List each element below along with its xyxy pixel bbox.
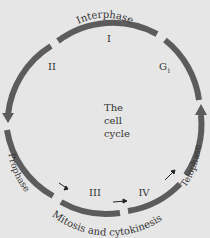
- arrowhead-up-icon: [195, 104, 207, 115]
- segment-III: [61, 202, 120, 214]
- stage-III: III: [89, 187, 101, 198]
- arrowhead-down-icon: [2, 113, 14, 123]
- center-label-2: cell: [104, 115, 122, 126]
- stage-II: II: [48, 61, 56, 72]
- segment-II: [8, 46, 51, 115]
- stage-IV: IV: [138, 187, 150, 198]
- label-telophase: Telophase: [179, 144, 203, 189]
- arrow-icon: [123, 199, 127, 203]
- cell-cycle-diagram: Interphase Mitosis and cytokinesis Proph…: [0, 0, 210, 238]
- stage-G1: G1: [159, 61, 171, 74]
- center-label-3: cycle: [104, 128, 130, 139]
- segment-IV: [128, 184, 180, 211]
- center-label-1: The: [104, 102, 123, 113]
- stage-I: I: [107, 33, 111, 44]
